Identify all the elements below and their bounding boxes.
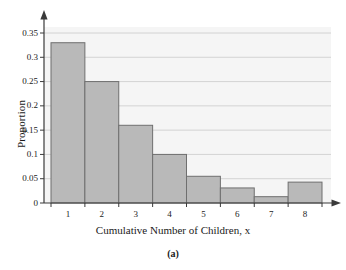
x-tick-label: 2 [90,210,114,219]
x-tick-label: 3 [124,210,148,219]
x-tick-label: 4 [158,210,182,219]
x-tick-label: 6 [225,210,249,219]
y-axis-title: Proportion [15,69,27,179]
figure-caption: (a) [0,248,346,259]
x-tick-label: 5 [191,210,215,219]
x-axis-title: Cumulative Number of Children, x [0,224,346,236]
x-tick-label: 8 [293,210,317,219]
figure-panel: 00.050.10.150.20.250.30.35 12345678 Prop… [0,0,346,270]
x-tick-label: 1 [56,210,80,219]
x-tick-label: 7 [259,210,283,219]
